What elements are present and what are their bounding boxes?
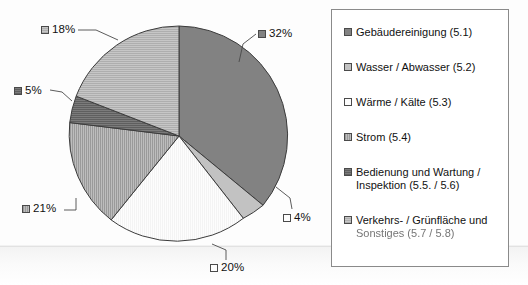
legend-label-6-line1: Verkehrs- / Grünfläche und [356, 214, 487, 226]
legend-label-1: Gebäudereinigung (5.1) [356, 26, 472, 39]
pie-label-text-20: 20% [221, 262, 244, 273]
legend-label-6-line2: Sonstiges (5.7 / 5.8) [356, 227, 487, 240]
legend-label-2: Wasser / Abwasser (5.2) [356, 61, 475, 74]
pie-label-4: 4% [283, 212, 311, 223]
pie-label-text-32: 32% [269, 28, 292, 39]
pie-chart-svg [68, 25, 290, 247]
pie-label-swatch-18 [41, 26, 49, 34]
legend-swatch-icon-1 [344, 28, 352, 36]
pie-label-21: 21% [22, 203, 56, 214]
pie-label-32: 32% [258, 28, 292, 39]
pie-label-swatch-21 [22, 205, 30, 213]
legend-swatch-icon-5 [344, 168, 352, 176]
legend-label-4: Strom (5.4) [356, 131, 411, 144]
legend-swatch-icon-3 [344, 98, 352, 106]
legend-item-gebaeudereinigung[interactable]: Gebäudereinigung (5.1) [344, 26, 500, 39]
pie-label-swatch-32 [258, 30, 266, 38]
pie-label-swatch-5 [14, 87, 22, 95]
pie-label-20: 20% [210, 262, 244, 273]
legend-label-5-line2: Inspektion (5.5. / 5.6) [356, 179, 459, 191]
pie-label-swatch-4 [283, 214, 291, 222]
legend-item-strom[interactable]: Strom (5.4) [344, 131, 500, 144]
pie-chart-area: 32% 4% 20% 21% 5% 18% [0, 0, 330, 285]
legend-swatch-icon-2 [344, 63, 352, 71]
pie-label-text-4: 4% [294, 212, 311, 223]
legend-label-3: Wärme / Kälte (5.3) [356, 96, 451, 109]
pie-label-swatch-20 [210, 264, 218, 272]
legend-label-5-line1: Bedienung und Wartung / [356, 166, 480, 178]
legend-item-verkehrs-gruenflaeche[interactable]: Verkehrs- / Grünfläche und Sonstiges (5.… [344, 214, 500, 240]
pie-label-5: 5% [14, 85, 42, 96]
chart-legend: Gebäudereinigung (5.1) Wasser / Abwasser… [331, 9, 509, 267]
pie-label-text-5: 5% [25, 85, 42, 96]
legend-swatch-icon-4 [344, 133, 352, 141]
legend-item-waerme-kaelte[interactable]: Wärme / Kälte (5.3) [344, 96, 500, 109]
legend-swatch-icon-6 [344, 216, 352, 224]
legend-label-5: Bedienung und Wartung / Inspektion (5.5.… [356, 166, 500, 192]
pie-label-text-21: 21% [33, 203, 56, 214]
pie-label-18: 18% [41, 24, 75, 35]
pie-chart [68, 25, 290, 247]
pie-label-text-18: 18% [52, 24, 75, 35]
legend-item-bedienung-wartung[interactable]: Bedienung und Wartung / Inspektion (5.5.… [344, 166, 500, 192]
legend-label-6: Verkehrs- / Grünfläche und Sonstiges (5.… [356, 214, 487, 240]
legend-item-wasser-abwasser[interactable]: Wasser / Abwasser (5.2) [344, 61, 500, 74]
